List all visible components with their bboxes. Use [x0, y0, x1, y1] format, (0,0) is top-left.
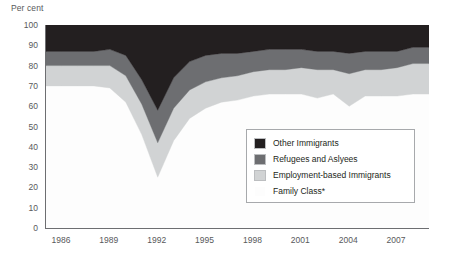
x-tick-2001: 2001 [280, 235, 320, 245]
x-tick-1986: 1986 [41, 235, 81, 245]
x-tick-2004: 2004 [328, 235, 368, 245]
y-tick-40: 40 [12, 142, 38, 152]
legend-item-3[interactable]: Family Class* [254, 183, 407, 199]
legend-label: Employment-based Immigrants [273, 170, 391, 181]
chart-legend: Other ImmigrantsRefugees and AslyeesEmpl… [246, 129, 415, 203]
legend-item-2[interactable]: Employment-based Immigrants [254, 167, 407, 183]
legend-swatch-icon [254, 154, 266, 165]
y-tick-30: 30 [12, 162, 38, 172]
x-tick-1998: 1998 [232, 235, 272, 245]
x-tick-1992: 1992 [137, 235, 177, 245]
x-tick-1995: 1995 [185, 235, 225, 245]
y-tick-100: 100 [12, 20, 38, 30]
y-tick-50: 50 [12, 122, 38, 132]
x-tick-2007: 2007 [376, 235, 416, 245]
y-tick-60: 60 [12, 101, 38, 111]
stacked-area-chart: Per cent 1009080706050403020100 19861989… [0, 0, 449, 261]
y-tick-80: 80 [12, 61, 38, 71]
x-tick-1989: 1989 [89, 235, 129, 245]
y-tick-70: 70 [12, 81, 38, 91]
legend-swatch-icon [254, 186, 266, 197]
y-tick-20: 20 [12, 182, 38, 192]
legend-label: Other Immigrants [273, 138, 339, 149]
y-axis-title: Per cent [11, 3, 43, 13]
legend-item-1[interactable]: Refugees and Aslyees [254, 151, 407, 167]
legend-label: Refugees and Aslyees [273, 154, 358, 165]
legend-item-0[interactable]: Other Immigrants [254, 135, 407, 151]
y-tick-0: 0 [12, 223, 38, 233]
legend-swatch-icon [254, 170, 266, 181]
legend-swatch-icon [254, 138, 266, 149]
y-tick-10: 10 [12, 203, 38, 213]
legend-label: Family Class* [273, 186, 325, 197]
y-tick-90: 90 [12, 40, 38, 50]
